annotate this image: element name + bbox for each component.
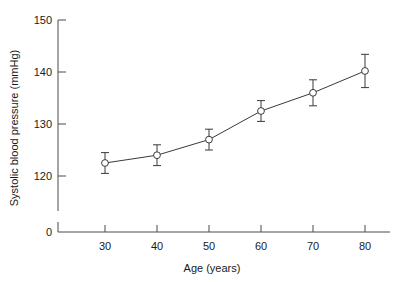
y-tick-label-140: 140: [34, 66, 52, 78]
data-point-marker: [206, 136, 213, 143]
chart-figure: 150 140 130 120 0 30 40 50 60 70 80 Age …: [0, 0, 397, 282]
data-series: [101, 54, 369, 173]
x-tick-marks: [105, 225, 365, 232]
x-tick-label-50: 50: [203, 240, 215, 252]
line-chart-svg: 150 140 130 120 0 30 40 50 60 70 80 Age …: [0, 0, 397, 282]
x-tick-label-30: 30: [99, 240, 111, 252]
x-tick-label-40: 40: [151, 240, 163, 252]
x-axis-title: Age (years): [184, 262, 241, 274]
series-line: [105, 71, 365, 163]
x-tick-label-60: 60: [255, 240, 267, 252]
data-point-marker: [102, 160, 109, 167]
y-tick-label-0: 0: [46, 226, 52, 238]
y-tick-label-120: 120: [34, 170, 52, 182]
y-tick-label-150: 150: [34, 14, 52, 26]
x-tick-label-70: 70: [307, 240, 319, 252]
y-tick-label-130: 130: [34, 118, 52, 130]
data-point-marker: [362, 68, 369, 75]
data-point-marker: [154, 152, 161, 159]
data-point-marker: [310, 89, 317, 96]
data-point-marker: [258, 108, 265, 115]
y-axis-title: Systolic blood pressure (mmHg): [8, 50, 20, 207]
x-tick-label-80: 80: [359, 240, 371, 252]
y-tick-marks: [58, 20, 66, 176]
